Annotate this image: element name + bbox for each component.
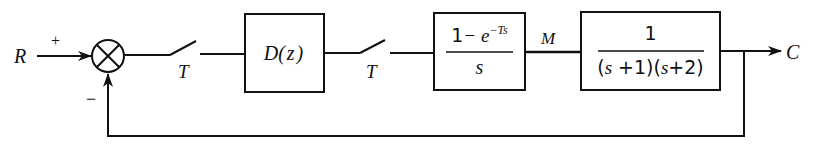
controller-arg: (z) [278, 42, 305, 64]
signal-label-M: M [541, 30, 555, 47]
block-diagram: R + − T T D(z) 1− e−Ts s M 1 (s +1)(s+2)… [0, 0, 816, 147]
zoh-numerator: 1− e−Ts [434, 26, 525, 45]
plant-denominator: (s +1)(s+2) [581, 58, 720, 77]
output-label-C: C [786, 42, 799, 62]
input-label-R: R [14, 46, 26, 66]
plus-sign: + [51, 33, 60, 49]
sampler-1-switch [170, 41, 196, 55]
sampler-1-period-label: T [178, 62, 189, 81]
zoh-denominator: s [434, 57, 525, 77]
sampler-2-switch [360, 40, 385, 53]
controller-name: D [264, 42, 278, 64]
plant-numerator: 1 [581, 24, 720, 43]
controller-block: D(z) [245, 43, 324, 63]
sampler-2-period-label: T [366, 62, 377, 81]
minus-sign: − [86, 90, 96, 108]
